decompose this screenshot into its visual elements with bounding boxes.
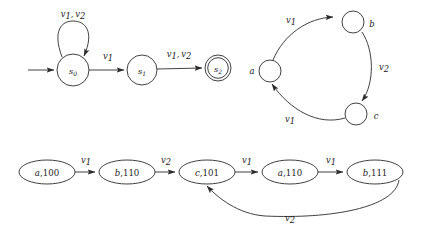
node-a [259, 60, 281, 82]
cycle-graph-panel: a b c v1 v2 v1 [250, 11, 390, 126]
chain-state-label-1: a,100 [35, 168, 59, 178]
node-b [342, 11, 364, 33]
product-chain-panel: a,100 b,110 c,101 a,110 b,111 v1 v2 v1 v… [19, 155, 403, 225]
figure-canvas: s0 s1 s2 v1, v2 v1 v1, v2 a b c [0, 0, 421, 235]
chain-state-label-4: a,110 [278, 168, 302, 178]
transition-label-s0-s1: v1 [103, 51, 113, 63]
chain-back-edge [207, 180, 399, 216]
node-label-b: b [369, 19, 374, 29]
edge-b-c [362, 32, 371, 101]
node-c [345, 103, 367, 125]
edge-label-a-b: v1 [286, 15, 296, 27]
chain-edge-label-2: v2 [161, 155, 171, 167]
edge-label-b-c: v2 [379, 62, 389, 74]
edge-label-c-a: v1 [285, 114, 295, 126]
transition-s0-s0 [58, 21, 89, 57]
node-label-a: a [250, 66, 255, 76]
chain-edge-label-5: v2 [285, 213, 295, 225]
chain-state-label-5: b,111 [363, 168, 388, 178]
edge-a-b [273, 17, 333, 60]
chain-edge-label-1: v1 [81, 155, 91, 167]
transition-label-s0-s0: v1, v2 [61, 9, 86, 21]
chain-state-label-3: c,101 [195, 168, 219, 178]
chain-edge-label-3: v1 [242, 155, 252, 167]
chain-state-label-2: b,110 [115, 168, 140, 178]
node-label-c: c [374, 111, 379, 121]
transition-s1-s2 [157, 68, 202, 69]
automaton-panel: s0 s1 s2 v1, v2 v1 v1, v2 [28, 9, 231, 86]
edge-c-a [272, 84, 345, 120]
chain-edge-label-4: v1 [326, 155, 336, 167]
transition-label-s1-s2: v1, v2 [167, 49, 192, 61]
automata-figure: s0 s1 s2 v1, v2 v1 v1, v2 a b c [0, 0, 421, 235]
